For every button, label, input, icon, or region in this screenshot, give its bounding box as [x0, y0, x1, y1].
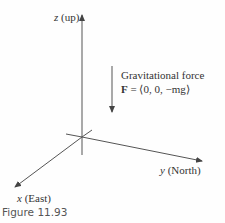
x-axis — [15, 137, 82, 187]
z-axis-label: z (up) — [53, 11, 80, 24]
force-equation: F = ⟨0, 0, −mg⟩ — [121, 83, 190, 95]
coordinate-axes-diagram: z (up) y (North) x (East) Gravitational … — [0, 0, 225, 223]
diagram-canvas: z (up) y (North) x (East) Gravitational … — [0, 0, 225, 223]
figure-caption: Figure 11.93 — [2, 206, 67, 218]
y-axis — [82, 137, 202, 161]
force-title: Gravitational force — [121, 69, 204, 81]
x-axis-label: x (East) — [16, 192, 51, 205]
y-axis-negative — [66, 134, 82, 137]
y-axis-label: y (North) — [159, 164, 201, 177]
x-axis-negative — [82, 130, 92, 137]
